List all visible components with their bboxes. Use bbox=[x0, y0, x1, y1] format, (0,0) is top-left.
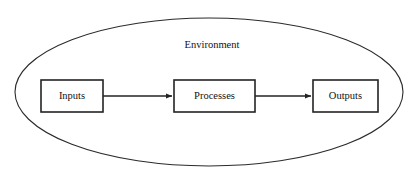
diagram-canvas: Environment Inputs Processes Outputs bbox=[0, 0, 416, 182]
systems-flow-diagram: Environment Inputs Processes Outputs bbox=[0, 0, 416, 182]
node-processes-label: Processes bbox=[194, 90, 235, 101]
node-inputs-label: Inputs bbox=[59, 90, 85, 101]
node-processes[interactable]: Processes bbox=[174, 80, 255, 112]
node-inputs[interactable]: Inputs bbox=[41, 80, 103, 112]
node-outputs-label: Outputs bbox=[329, 90, 362, 101]
node-outputs[interactable]: Outputs bbox=[313, 80, 378, 112]
environment-label: Environment bbox=[185, 39, 240, 50]
